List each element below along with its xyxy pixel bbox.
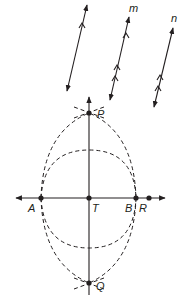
point-A xyxy=(38,195,43,200)
line-l xyxy=(67,5,87,91)
line-label-n: n xyxy=(171,12,177,24)
label-Q: Q xyxy=(96,280,105,292)
line-label-m: m xyxy=(129,2,138,14)
parallel-tick-icon xyxy=(112,33,129,81)
line-n: n xyxy=(154,12,177,107)
point-P xyxy=(86,110,91,115)
label-R: R xyxy=(139,202,147,214)
label-A: A xyxy=(27,202,35,214)
line-m: m xyxy=(110,2,138,100)
point-B xyxy=(133,195,138,200)
point-R xyxy=(146,195,151,200)
arc-AQ xyxy=(41,198,89,283)
point-T xyxy=(86,195,91,200)
label-P: P xyxy=(97,108,105,120)
point-Q xyxy=(86,280,91,285)
label-T: T xyxy=(92,202,100,214)
arc-AP xyxy=(41,113,89,198)
arc-BP xyxy=(89,113,136,198)
label-B: B xyxy=(125,202,132,214)
parallel-tick-icon xyxy=(155,75,163,91)
construction-diagram: m n P Q A T B R xyxy=(0,0,186,295)
